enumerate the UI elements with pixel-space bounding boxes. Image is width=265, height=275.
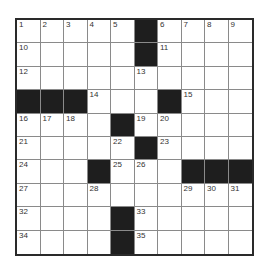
answer-cell[interactable]: 16	[17, 114, 41, 137]
answer-cell[interactable]	[41, 67, 65, 90]
answer-cell[interactable]: 34	[17, 231, 41, 254]
answer-cell[interactable]	[64, 137, 88, 160]
answer-cell[interactable]	[205, 137, 229, 160]
clue-number: 28	[90, 185, 99, 193]
answer-cell[interactable]: 5	[111, 20, 135, 43]
answer-cell[interactable]	[205, 114, 229, 137]
answer-cell[interactable]	[41, 184, 65, 207]
answer-cell[interactable]	[205, 207, 229, 230]
answer-cell[interactable]: 12	[17, 67, 41, 90]
crossword-grid: 1234567891011121314151617181920212223242…	[15, 18, 254, 256]
answer-cell[interactable]	[205, 67, 229, 90]
answer-cell[interactable]	[88, 231, 112, 254]
answer-cell[interactable]	[111, 67, 135, 90]
answer-cell[interactable]	[205, 90, 229, 113]
answer-cell[interactable]	[158, 231, 182, 254]
answer-cell[interactable]	[111, 43, 135, 66]
answer-cell[interactable]	[88, 137, 112, 160]
answer-cell[interactable]	[41, 160, 65, 183]
answer-cell[interactable]: 31	[229, 184, 253, 207]
answer-cell[interactable]: 4	[88, 20, 112, 43]
answer-cell[interactable]	[182, 137, 206, 160]
block-cell	[135, 43, 159, 66]
answer-cell[interactable]	[205, 231, 229, 254]
clue-number: 12	[19, 68, 28, 76]
clue-number: 22	[113, 138, 122, 146]
answer-cell[interactable]	[229, 67, 253, 90]
block-cell	[88, 160, 112, 183]
answer-cell[interactable]: 7	[182, 20, 206, 43]
answer-cell[interactable]: 33	[135, 207, 159, 230]
answer-cell[interactable]: 24	[17, 160, 41, 183]
answer-cell[interactable]	[182, 207, 206, 230]
answer-cell[interactable]: 3	[64, 20, 88, 43]
clue-number: 29	[184, 185, 193, 193]
answer-cell[interactable]: 14	[88, 90, 112, 113]
answer-cell[interactable]	[64, 207, 88, 230]
answer-cell[interactable]: 15	[182, 90, 206, 113]
answer-cell[interactable]	[64, 231, 88, 254]
answer-cell[interactable]	[111, 184, 135, 207]
answer-cell[interactable]: 17	[41, 114, 65, 137]
answer-cell[interactable]	[135, 184, 159, 207]
block-cell	[111, 231, 135, 254]
answer-cell[interactable]: 30	[205, 184, 229, 207]
answer-cell[interactable]	[64, 67, 88, 90]
block-cell	[135, 20, 159, 43]
answer-cell[interactable]: 11	[158, 43, 182, 66]
answer-cell[interactable]	[88, 67, 112, 90]
answer-cell[interactable]: 9	[229, 20, 253, 43]
answer-cell[interactable]	[41, 137, 65, 160]
answer-cell[interactable]: 23	[158, 137, 182, 160]
answer-cell[interactable]: 20	[158, 114, 182, 137]
answer-cell[interactable]	[64, 43, 88, 66]
answer-cell[interactable]	[88, 43, 112, 66]
answer-cell[interactable]: 8	[205, 20, 229, 43]
answer-cell[interactable]: 28	[88, 184, 112, 207]
answer-cell[interactable]	[88, 114, 112, 137]
answer-cell[interactable]: 22	[111, 137, 135, 160]
answer-cell[interactable]	[229, 90, 253, 113]
clue-number: 23	[160, 138, 169, 146]
answer-cell[interactable]	[182, 231, 206, 254]
clue-number: 2	[43, 21, 47, 29]
answer-cell[interactable]	[182, 67, 206, 90]
answer-cell[interactable]: 32	[17, 207, 41, 230]
answer-cell[interactable]	[158, 160, 182, 183]
answer-cell[interactable]	[229, 114, 253, 137]
answer-cell[interactable]: 26	[135, 160, 159, 183]
answer-cell[interactable]	[158, 207, 182, 230]
answer-cell[interactable]	[158, 67, 182, 90]
answer-cell[interactable]	[229, 207, 253, 230]
answer-cell[interactable]: 21	[17, 137, 41, 160]
answer-cell[interactable]	[229, 231, 253, 254]
answer-cell[interactable]: 18	[64, 114, 88, 137]
answer-cell[interactable]: 6	[158, 20, 182, 43]
answer-cell[interactable]	[135, 90, 159, 113]
answer-cell[interactable]	[64, 160, 88, 183]
answer-cell[interactable]: 27	[17, 184, 41, 207]
answer-cell[interactable]	[88, 207, 112, 230]
answer-cell[interactable]: 1	[17, 20, 41, 43]
block-cell	[205, 160, 229, 183]
answer-cell[interactable]: 2	[41, 20, 65, 43]
clue-number: 3	[66, 21, 70, 29]
answer-cell[interactable]: 10	[17, 43, 41, 66]
answer-cell[interactable]	[158, 184, 182, 207]
answer-cell[interactable]	[205, 43, 229, 66]
answer-cell[interactable]	[111, 90, 135, 113]
answer-cell[interactable]	[182, 114, 206, 137]
answer-cell[interactable]: 25	[111, 160, 135, 183]
answer-cell[interactable]	[41, 207, 65, 230]
answer-cell[interactable]	[64, 184, 88, 207]
answer-cell[interactable]: 29	[182, 184, 206, 207]
answer-cell[interactable]	[41, 231, 65, 254]
answer-cell[interactable]: 35	[135, 231, 159, 254]
answer-cell[interactable]: 13	[135, 67, 159, 90]
answer-cell[interactable]	[229, 137, 253, 160]
answer-cell[interactable]	[182, 43, 206, 66]
clue-number: 31	[231, 185, 240, 193]
answer-cell[interactable]: 19	[135, 114, 159, 137]
answer-cell[interactable]	[229, 43, 253, 66]
answer-cell[interactable]	[41, 43, 65, 66]
